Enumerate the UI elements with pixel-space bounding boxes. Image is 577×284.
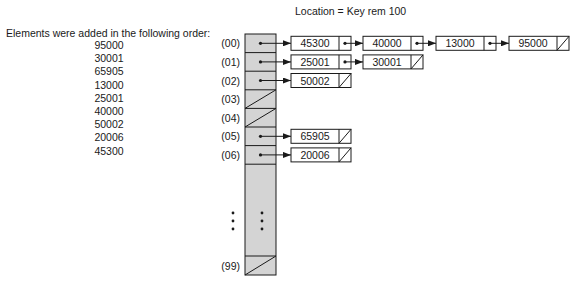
node-key: 25001: [300, 56, 329, 68]
bucket-index-label: (99): [221, 260, 240, 272]
node-key: 13000: [445, 37, 474, 49]
ellipsis-dot: [261, 220, 264, 223]
ellipsis-dot: [261, 228, 264, 231]
node-key: 50002: [300, 75, 329, 87]
bucket-index-label: (04): [221, 112, 240, 124]
hash-table-diagram: (00)45300400001300095000(01)2500130001(0…: [0, 0, 577, 284]
ellipsis-dot: [232, 212, 235, 215]
bucket-index-label: (01): [221, 56, 240, 68]
bucket-index-label: (00): [221, 37, 240, 49]
node-key: 95000: [518, 37, 547, 49]
node-key: 65905: [300, 130, 329, 142]
node-key: 40000: [372, 37, 401, 49]
node-key: 45300: [300, 37, 329, 49]
bucket-index-label: (02): [221, 75, 240, 87]
bucket-index-label: (05): [221, 130, 240, 142]
ellipsis-dot: [232, 228, 235, 231]
bucket-index-label: (03): [221, 93, 240, 105]
bucket-index-label: (06): [221, 149, 240, 161]
ellipsis-dot: [232, 220, 235, 223]
ellipsis-dot: [261, 212, 264, 215]
node-key: 20006: [300, 149, 329, 161]
node-key: 30001: [372, 56, 401, 68]
